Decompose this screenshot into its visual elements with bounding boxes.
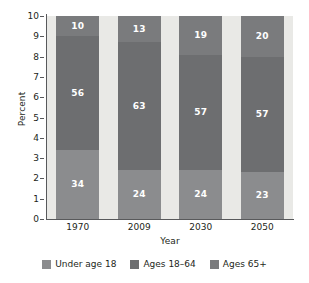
bar-segment-senior[interactable]: 10 [56, 16, 99, 36]
y-axis-tick-label: 6 [5, 93, 39, 102]
y-axis-tick-label: 10 [5, 12, 39, 21]
stacked-bar-chart: Percent 109876543210 1056341363241957242… [0, 0, 309, 283]
legend-item-label: Ages 18–64 [143, 259, 195, 269]
bar-segment-under[interactable]: 24 [118, 170, 161, 219]
bar-segment-mid[interactable]: 56 [56, 36, 99, 150]
bar-segment-value: 20 [256, 32, 269, 41]
bar-segment-value: 24 [194, 190, 207, 199]
bar-segment-mid[interactable]: 57 [179, 55, 222, 171]
bar-segment-value: 56 [71, 89, 84, 98]
x-axis-tick-label: 2050 [241, 222, 284, 233]
bar-2050[interactable]: 205723 [241, 16, 284, 219]
y-axis-tick-mark [40, 118, 44, 119]
legend-item-mid[interactable]: Ages 18–64 [130, 259, 195, 269]
legend-swatch-icon [42, 260, 51, 269]
bar-segment-value: 10 [71, 22, 84, 31]
legend-swatch-icon [210, 260, 219, 269]
y-axis-tick-mark [40, 219, 44, 220]
y-axis-tick-label: 3 [5, 154, 39, 163]
bar-segment-senior[interactable]: 13 [118, 16, 161, 42]
legend-item-senior[interactable]: Ages 65+ [210, 259, 267, 269]
bar-segment-value: 63 [133, 102, 146, 111]
legend-item-under[interactable]: Under age 18 [42, 259, 116, 269]
y-axis-tick-label: 2 [5, 174, 39, 183]
bar-segment-under[interactable]: 23 [241, 172, 284, 219]
bar-segment-under[interactable]: 24 [179, 170, 222, 219]
x-axis-title: Year [47, 236, 293, 246]
bar-segment-value: 34 [71, 180, 84, 189]
x-axis-spine [46, 219, 294, 220]
y-axis: 109876543210 [0, 0, 47, 225]
legend-item-label: Ages 65+ [223, 259, 267, 269]
y-axis-tick-mark [40, 199, 44, 200]
y-axis-tick-mark [40, 36, 44, 37]
bar-2030[interactable]: 195724 [179, 16, 222, 219]
legend-swatch-icon [130, 260, 139, 269]
plot-area: 105634136324195724205723 [47, 16, 293, 219]
bar-segment-value: 13 [133, 25, 146, 34]
bar-2009[interactable]: 136324 [118, 16, 161, 219]
y-axis-tick-label: 7 [5, 72, 39, 81]
y-axis-tick-mark [40, 77, 44, 78]
bar-segment-value: 23 [256, 191, 269, 200]
y-axis-tick-mark [40, 16, 44, 17]
bar-segment-mid[interactable]: 57 [241, 57, 284, 173]
legend-item-label: Under age 18 [55, 259, 116, 269]
y-axis-tick-mark [40, 57, 44, 58]
y-axis-tick-mark [40, 158, 44, 159]
bar-1970[interactable]: 105634 [56, 16, 99, 219]
bar-segment-value: 24 [133, 190, 146, 199]
y-axis-tick-mark [40, 97, 44, 98]
y-axis-tick-label: 4 [5, 133, 39, 142]
y-axis-tick-mark [40, 138, 44, 139]
y-axis-tick-label: 8 [5, 52, 39, 61]
x-axis-tick-label: 2030 [179, 222, 222, 233]
bar-segment-value: 19 [194, 31, 207, 40]
y-axis-tick-label: 0 [5, 215, 39, 224]
y-axis-tick-label: 5 [5, 113, 39, 122]
y-axis-tick-label: 1 [5, 194, 39, 203]
y-axis-tick-mark [40, 178, 44, 179]
bar-segment-senior[interactable]: 20 [241, 16, 284, 57]
bar-segment-mid[interactable]: 63 [118, 42, 161, 170]
chart-legend: Under age 18Ages 18–64Ages 65+ [0, 259, 309, 269]
bar-group: 105634136324195724205723 [47, 16, 293, 219]
x-axis-tick-label: 2009 [118, 222, 161, 233]
bar-segment-value: 57 [256, 110, 269, 119]
x-axis-tick-label: 1970 [56, 222, 99, 233]
bar-segment-under[interactable]: 34 [56, 150, 99, 219]
y-axis-tick-label: 9 [5, 32, 39, 41]
bar-segment-senior[interactable]: 19 [179, 16, 222, 55]
x-axis-tick-labels: 1970200920302050 [47, 222, 293, 236]
bar-segment-value: 57 [194, 108, 207, 117]
